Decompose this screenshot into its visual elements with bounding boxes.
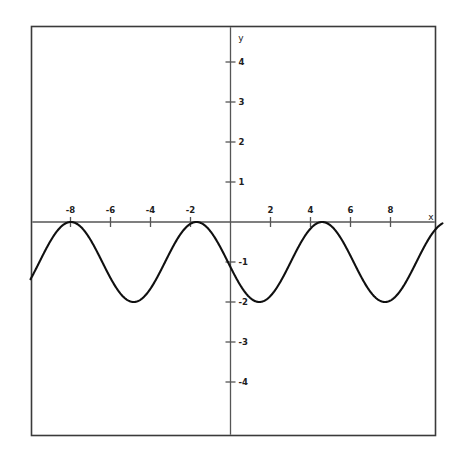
y-tick-label: -1	[239, 257, 249, 267]
y-tick-label: -3	[239, 337, 249, 347]
y-tick-label: -2	[239, 297, 249, 307]
y-tick-label: 1	[239, 177, 245, 187]
plot-canvas: -8-6-4-22468-4-3-2-11234 x y	[0, 0, 454, 466]
y-tick-label: -4	[239, 377, 249, 387]
y-axis-label: y	[238, 33, 244, 43]
x-tick-label: -4	[146, 205, 156, 215]
x-axis-label: x	[428, 212, 434, 222]
x-tick-label: -6	[106, 205, 116, 215]
x-tick-label: 8	[388, 205, 394, 215]
x-tick-label: -2	[186, 205, 196, 215]
x-tick-label: 4	[308, 205, 314, 215]
x-tick-label: -8	[66, 205, 76, 215]
x-tick-label: 2	[268, 205, 274, 215]
chart-figure: -8-6-4-22468-4-3-2-11234 x y	[0, 0, 454, 466]
x-tick-label: 6	[348, 205, 354, 215]
y-tick-label: 3	[239, 97, 245, 107]
y-tick-label: 2	[239, 137, 245, 147]
plot-frame	[32, 27, 436, 436]
y-tick-label: 4	[239, 57, 245, 67]
